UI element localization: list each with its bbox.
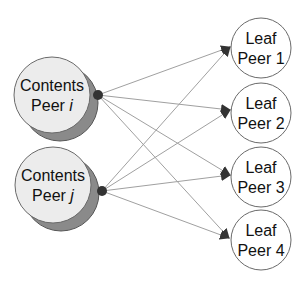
- source-dot-icon: [93, 90, 103, 100]
- content-peer-label-line2: Peer j: [32, 187, 74, 204]
- content-peer-i: Contents Peer i: [14, 57, 103, 141]
- edge-i-to-4: [98, 95, 229, 238]
- content-peer-label-line2: Peer i: [31, 97, 73, 114]
- leaf-peer-4: Leaf Peer 4: [231, 210, 291, 270]
- leaf-peer-label-line1: Leaf: [245, 159, 277, 176]
- content-peer-j: Contents Peer j: [15, 147, 107, 231]
- leaf-peer-body: [231, 210, 291, 270]
- leaf-peer-label-line2: Peer 1: [237, 50, 284, 67]
- source-dot-icon: [97, 186, 107, 196]
- content-peer-body: [14, 57, 90, 133]
- leaf-peer-body: [231, 18, 291, 78]
- edge-j-to-3: [102, 175, 230, 191]
- leaf-peer-label-line1: Leaf: [245, 30, 277, 47]
- leaf-peer-label-line2: Peer 3: [237, 179, 284, 196]
- content-peer-label-line1: Contents: [21, 167, 85, 184]
- leaf-peer-label-line1: Leaf: [245, 222, 277, 239]
- peer-diagram: Contents Peer i Contents Peer j Leaf Pee…: [0, 0, 304, 286]
- leaf-peer-label-line1: Leaf: [245, 95, 277, 112]
- leaf-peer-3: Leaf Peer 3: [231, 147, 291, 207]
- content-peer-label-line1: Contents: [20, 77, 84, 94]
- edge-j-to-2: [102, 110, 230, 191]
- leaf-peer-1: Leaf Peer 1: [231, 18, 291, 78]
- edge-j-to-4: [102, 191, 229, 238]
- edge-i-to-1: [98, 47, 230, 95]
- content-peer-body: [15, 147, 91, 223]
- leaf-peer-2: Leaf Peer 2: [231, 83, 291, 143]
- edge-i-to-2: [98, 95, 230, 110]
- leaf-peer-label-line2: Peer 4: [237, 242, 284, 259]
- edge-i-to-3: [98, 95, 230, 175]
- edges: [98, 47, 230, 238]
- leaf-peer-body: [231, 147, 291, 207]
- leaf-peer-label-line2: Peer 2: [237, 115, 284, 132]
- leaf-peer-body: [231, 83, 291, 143]
